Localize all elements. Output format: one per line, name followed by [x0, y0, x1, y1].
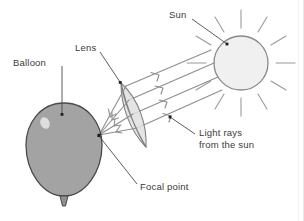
balloon-body: [26, 103, 102, 196]
sun-disc: [214, 36, 268, 90]
light-ray-arrowhead: [155, 86, 163, 94]
light-ray-arrowhead: [159, 100, 167, 108]
lens-group: [121, 83, 146, 147]
balloon-knot: [60, 196, 68, 206]
label-light-rays-line1: Light rays: [199, 127, 242, 138]
dot-lens: [119, 81, 122, 84]
sun-group: [187, 10, 295, 116]
right-edge-rule: [303, 0, 304, 221]
light-ray: [126, 50, 211, 86]
label-balloon: Balloon: [13, 57, 46, 68]
light-ray: [129, 63, 214, 100]
leader-lens: [100, 52, 120, 82]
light-ray: [137, 90, 222, 128]
label-lens: Lens: [75, 42, 96, 53]
leader-light-rays: [170, 117, 195, 134]
dot-focal-point: [97, 134, 100, 137]
converging-ray: [99, 86, 126, 135]
dot-balloon: [61, 113, 64, 116]
diagram-canvas: Sun Lens Balloon Focal point Light rays …: [0, 0, 304, 221]
balloon-group: [26, 103, 102, 206]
dot-sun: [226, 43, 229, 46]
leader-sun: [192, 19, 227, 44]
converging-ray-arrowhead: [116, 126, 122, 133]
lens-body: [121, 83, 146, 147]
light-ray: [133, 77, 218, 114]
optics-diagram: Sun Lens Balloon Focal point Light rays …: [0, 0, 304, 221]
light-ray-arrowhead: [151, 73, 159, 82]
label-focal-point: Focal point: [140, 181, 189, 192]
label-light-rays-line2: from the sun: [199, 139, 254, 150]
label-sun: Sun: [169, 9, 187, 20]
dot-light-rays: [169, 116, 172, 119]
leader-focal-point: [99, 136, 137, 184]
right-edge-rule-secondary: [298, 0, 299, 221]
